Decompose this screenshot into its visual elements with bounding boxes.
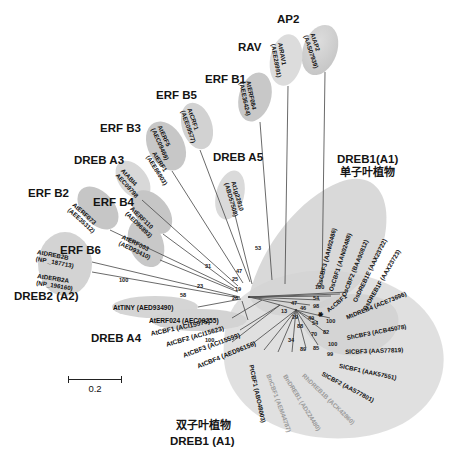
scale-bar-value: 0.2	[68, 383, 122, 394]
bootstrap-89: 89	[300, 346, 306, 352]
bootstrap-54a: 54	[313, 295, 319, 301]
bootstrap-88: 88	[297, 323, 303, 329]
bootstrap-82: 82	[323, 329, 329, 335]
group-subtitle-dreb1-a1-monocot-cjk: 单子叶植物	[340, 166, 395, 180]
group-title-rav: RAV	[238, 40, 261, 54]
bootstrap-100d: 100	[205, 337, 214, 343]
bootstrap-34: 34	[288, 337, 294, 343]
bootstrap-85: 85	[313, 345, 319, 351]
bootstrap-100b: 100	[326, 318, 335, 324]
bootstrap-47b: 47	[291, 300, 297, 306]
bootstrap-58: 58	[180, 292, 186, 298]
group-title-erf-b4: ERF B4	[93, 195, 134, 209]
bootstrap-13: 13	[281, 308, 287, 314]
bootstrap-31: 31	[205, 263, 211, 269]
group-title-dreb1-a1-dicot: DREB1 (A1)	[170, 434, 235, 448]
group-title-dreb-a3: DREB A3	[74, 153, 124, 167]
group-title-dreb-a5: DREB A5	[213, 150, 263, 164]
group-subtitle-dreb1-a1-dicot-cjk: 双子叶植物	[176, 419, 231, 433]
group-title-erf-b5: ERF B5	[156, 88, 197, 102]
bootstrap-70: 70	[311, 331, 317, 337]
bootstrap-98: 98	[313, 303, 319, 309]
bootstrap-19: 19	[235, 286, 241, 292]
bootstrap-99: 99	[327, 351, 333, 357]
group-title-dreb-a4: DREB A4	[91, 331, 141, 345]
group-title-erf-b3: ERF B3	[100, 121, 141, 135]
bootstrap-46: 46	[300, 305, 306, 311]
bootstrap-54b: 54	[312, 320, 318, 326]
bootstrap-100a: 100	[315, 284, 324, 290]
scale-bar: 0.2	[68, 376, 122, 394]
scale-bar-line	[68, 376, 122, 383]
bootstrap-47a: 47	[236, 268, 242, 274]
phylogenetic-tree-figure: AP2 RAV ERF B1 ERF B5 ERF B3 DREB A3 ERF…	[0, 0, 461, 460]
taxon-attiny: AtTINY (AED93490)	[113, 304, 173, 312]
bootstrap-29: 29	[292, 314, 298, 320]
group-title-dreb1-a1-monocot: DREB1(A1)	[337, 152, 398, 166]
bootstrap-100c: 100	[328, 341, 337, 347]
group-title-ap2: AP2	[277, 12, 299, 26]
bootstrap-23: 23	[197, 283, 203, 289]
bootstrap-100e: 100	[119, 277, 128, 283]
bootstrap-25: 25	[232, 276, 238, 282]
group-title-erf-b2: ERF B2	[28, 186, 69, 200]
bootstrap-26: 26	[232, 295, 238, 301]
bootstrap-53: 53	[255, 245, 261, 251]
